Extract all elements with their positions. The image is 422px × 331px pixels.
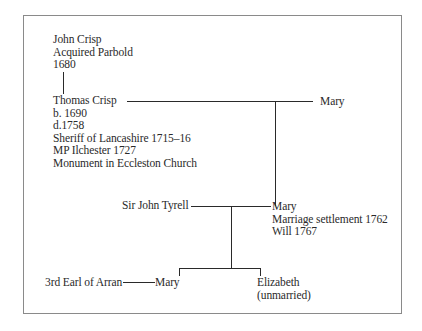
person-detail: Acquired Parbold — [53, 46, 133, 59]
person-name: Elizabeth — [257, 276, 311, 289]
person-earl-of-arran: 3rd Earl of Arran — [45, 276, 122, 289]
marriage-line-arran-mary — [123, 282, 155, 283]
person-detail: d.1758 — [53, 119, 197, 132]
person-mary-granddaughter: Mary — [155, 276, 180, 289]
person-name: Mary — [320, 95, 345, 108]
person-mary-daughter: Mary Marriage settlement 1762 Will 1767 — [272, 200, 388, 238]
child-tick-elizabeth — [260, 268, 261, 276]
person-mary-wife-of-thomas: Mary — [320, 95, 345, 108]
person-name: Mary — [272, 200, 388, 213]
marriage-line-thomas-mary — [127, 101, 313, 102]
sibling-line — [179, 268, 261, 269]
child-tick-mary — [179, 268, 180, 276]
person-detail: Monument in Eccleston Church — [53, 157, 197, 170]
person-detail: (unmarried) — [257, 289, 311, 302]
person-detail: Marriage settlement 1762 — [272, 213, 388, 226]
descent-line-to-children — [231, 206, 232, 268]
person-name: John Crisp — [53, 33, 133, 46]
person-detail: Will 1767 — [272, 225, 388, 238]
person-detail: b. 1690 — [53, 107, 197, 120]
person-detail: 1680 — [53, 58, 133, 71]
person-john-crisp: John Crisp Acquired Parbold 1680 — [53, 33, 133, 71]
descent-line-to-mary — [275, 101, 276, 206]
person-detail: MP Ilchester 1727 — [53, 144, 197, 157]
person-detail: Sheriff of Lancashire 1715–16 — [53, 132, 197, 145]
person-name: 3rd Earl of Arran — [45, 276, 122, 289]
descent-line-john-to-thomas — [63, 72, 64, 94]
person-name: Mary — [155, 276, 180, 289]
person-elizabeth: Elizabeth (unmarried) — [257, 276, 311, 301]
person-thomas-crisp: Thomas Crisp b. 1690 d.1758 Sheriff of L… — [53, 94, 197, 170]
person-sir-john-tyrell: Sir John Tyrell — [122, 199, 188, 212]
person-name: Sir John Tyrell — [122, 199, 188, 212]
